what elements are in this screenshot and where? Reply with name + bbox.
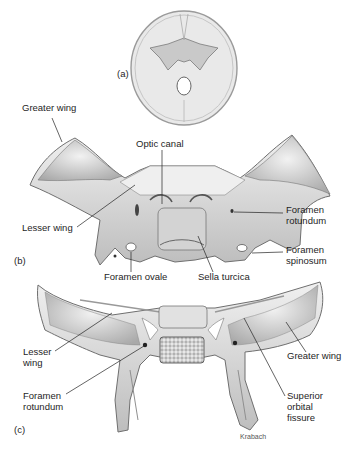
- sphenoid-anterior-view-c: [37, 282, 322, 432]
- skull-view-a: [131, 11, 237, 125]
- label-b-greater-wing: Greater wing: [22, 102, 76, 113]
- panel-label-c: (c): [14, 424, 25, 435]
- panel-label-a: (a): [117, 68, 129, 79]
- label-b-foramen-ovale: Foramen ovale: [104, 271, 167, 282]
- label-b-foramen-spinosum: Foramen spinosum: [286, 244, 327, 266]
- label-c-superior-orbital-fissure: Superior orbital fissure: [287, 390, 323, 423]
- label-b-foramen-rotundum: Foramen rotundum: [286, 204, 326, 226]
- sphenoid-superior-view-b: [30, 135, 330, 265]
- label-c-lesser-wing: Lesser wing: [23, 346, 52, 368]
- panel-label-b: (b): [14, 255, 26, 266]
- label-c-greater-wing: Greater wing: [287, 350, 341, 361]
- label-b-optic-canal: Optic canal: [136, 138, 184, 149]
- label-b-lesser-wing: Lesser wing: [22, 222, 73, 233]
- label-c-foramen-rotundum: Foramen rotundum: [23, 390, 63, 412]
- artist-credit: Krabach: [240, 431, 266, 442]
- label-b-sella-turcica: Sella turcica: [198, 271, 250, 282]
